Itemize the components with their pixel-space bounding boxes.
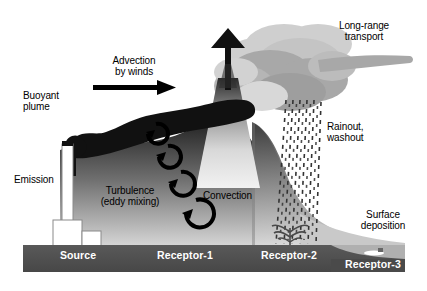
- diagram-figure: Buoyant plume Advection by winds Long-ra…: [0, 0, 427, 291]
- ground-label-source: Source: [38, 250, 118, 261]
- label-advection: Advection by winds: [92, 55, 176, 77]
- label-long-range-transport: Long-range transport: [318, 20, 410, 42]
- label-convection: Convection: [203, 190, 273, 201]
- ground-label-receptor-3: Receptor-3: [337, 259, 409, 270]
- ground-label-receptor-2: Receptor-2: [249, 250, 329, 261]
- label-surface-deposition: Surface deposition: [345, 209, 421, 231]
- right-arrow-icon: [93, 80, 176, 95]
- ground-label-receptor-1: Receptor-1: [145, 250, 225, 261]
- label-buoyant-plume: Buoyant plume: [23, 90, 83, 112]
- label-emission: Emission: [14, 174, 78, 185]
- diagram-canvas: [0, 0, 427, 291]
- label-turbulence: Turbulence (eddy mixing): [88, 185, 172, 207]
- label-rainout-washout: Rainout, washout: [327, 121, 397, 143]
